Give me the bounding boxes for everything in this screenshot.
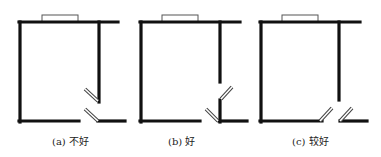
door-leaf-inner — [340, 108, 352, 121]
caption-panel-b: (b) 好 — [168, 133, 195, 148]
floor-plan-c — [260, 15, 367, 122]
door-leaf-inner — [85, 109, 98, 121]
door-leaf-inner — [320, 108, 332, 121]
floor-plan-b — [140, 15, 247, 122]
door-leaf-inner — [221, 87, 232, 99]
door-leaf-inner — [206, 109, 218, 121]
caption-panel-c: (c) 较好 — [292, 133, 329, 148]
door-leaf-inner — [85, 89, 98, 101]
caption-panel-a: (a) 不好 — [52, 133, 89, 148]
floor-plan-a — [19, 15, 125, 122]
